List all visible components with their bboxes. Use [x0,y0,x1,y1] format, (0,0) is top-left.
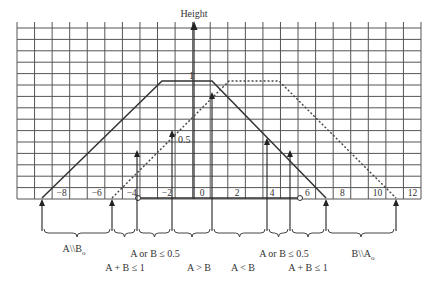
x-tick-labels: −8−6−4−2024681012 [57,188,418,198]
support-left-circle [136,196,141,201]
region-label-a-lt-b: A < B [231,262,255,273]
height-half-label: 0.5 [178,134,191,145]
region-label-a-gt-b: A > B [187,262,211,273]
region-label-sum-right: A + B ≤ 1 [288,262,327,273]
region-brace [174,229,210,237]
x-tick-label: −2 [162,188,172,198]
arrow-up-icon [109,199,115,206]
region-label-half-right: A or B ≤ 0.5 [259,248,309,259]
x-tick-label: 8 [340,188,345,198]
region-brace [139,229,170,237]
height-axis-title: Height [180,8,207,19]
height-one-label: 1 [189,70,194,81]
arrow-up-icon [323,199,329,206]
x-tick-label: 4 [270,188,275,198]
x-tick-label: 0 [200,188,205,198]
region-labels: A\\Bo A + B ≤ 1 A or B ≤ 0.5 A > B A < B… [63,243,375,273]
region-brace [214,229,265,237]
arrow-up-icon [393,199,399,206]
height-axis-arrow-icon [191,21,198,30]
region-braces [44,229,394,237]
trapezoid-comparison-diagram: Height −8−6−4−2024681012 1 0.5 A\\Bo A +… [0,0,433,285]
grid [17,22,421,199]
region-brace [328,229,394,237]
support-right-circle [298,196,303,201]
arrow-up-icon [39,199,45,206]
x-tick-label: −6 [92,188,102,198]
boundary-arrows [39,92,399,231]
x-tick-label: 2 [235,188,240,198]
x-tick-label: 6 [305,188,310,198]
x-tick-label: 10 [373,188,383,198]
x-tick-label: 12 [408,188,418,198]
region-brace [269,229,288,237]
x-tick-label: −8 [57,188,67,198]
region-brace [114,229,135,237]
region-label-half-left: A or B ≤ 0.5 [130,248,180,259]
region-label-sum-left: A + B ≤ 1 [105,262,144,273]
region-brace [44,229,110,237]
trapezoid-b-dashed [112,81,396,198]
region-label-b-minus-a: B\\Ao [352,248,375,262]
region-brace [292,229,324,237]
region-label-a-minus-b: A\\Bo [63,243,86,257]
